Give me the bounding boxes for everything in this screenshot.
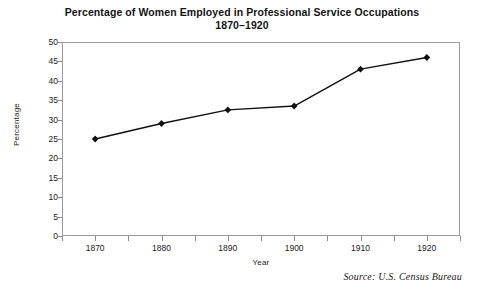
y-tick-mark bbox=[57, 178, 62, 179]
x-tick-label: 1870 bbox=[70, 243, 120, 253]
x-tick-mark bbox=[427, 236, 428, 241]
y-tick-label: 25 bbox=[36, 135, 58, 144]
x-tick-mark bbox=[162, 236, 163, 241]
x-tick-mark bbox=[294, 236, 295, 241]
x-tick-mark bbox=[361, 236, 362, 241]
chart-title-line1: Percentage of Women Employed in Professi… bbox=[0, 6, 484, 19]
x-tick-label: 1890 bbox=[203, 243, 253, 253]
y-tick-label: 20 bbox=[36, 154, 58, 163]
x-axis-tick-labels: 187018801890190019101920 bbox=[0, 243, 484, 255]
x-tick-label: 1880 bbox=[137, 243, 187, 253]
x-tick-label: 1910 bbox=[336, 243, 386, 253]
x-tick-mark bbox=[261, 236, 262, 241]
y-tick-label: 15 bbox=[36, 173, 58, 182]
y-tick-mark bbox=[57, 120, 62, 121]
y-tick-label: 10 bbox=[36, 193, 58, 202]
y-tick-mark bbox=[57, 217, 62, 218]
x-tick-mark bbox=[128, 236, 129, 241]
plot-area bbox=[62, 42, 460, 236]
y-tick-mark bbox=[57, 158, 62, 159]
y-axis-tick-labels: 50454035302520151050 bbox=[34, 42, 58, 236]
x-tick-mark bbox=[327, 236, 328, 241]
chart-title: Percentage of Women Employed in Professi… bbox=[0, 6, 484, 32]
chart-figure: Percentage of Women Employed in Professi… bbox=[0, 0, 484, 292]
x-axis-title: Year bbox=[62, 258, 460, 267]
y-tick-label: 30 bbox=[36, 115, 58, 124]
y-tick-mark bbox=[57, 81, 62, 82]
x-tick-mark bbox=[460, 236, 461, 241]
y-tick-mark bbox=[57, 61, 62, 62]
x-tick-mark bbox=[62, 236, 63, 241]
y-tick-mark bbox=[57, 197, 62, 198]
y-tick-label: 0 bbox=[36, 232, 58, 241]
y-axis-title: Percentage bbox=[12, 95, 21, 155]
y-tick-label: 35 bbox=[36, 96, 58, 105]
x-axis-ticks bbox=[62, 236, 460, 242]
y-tick-label: 40 bbox=[36, 76, 58, 85]
x-tick-label: 1920 bbox=[402, 243, 452, 253]
y-tick-label: 50 bbox=[36, 38, 58, 47]
chart-title-line2: 1870–1920 bbox=[0, 19, 484, 32]
x-tick-mark bbox=[394, 236, 395, 241]
y-tick-mark bbox=[57, 42, 62, 43]
x-tick-label: 1900 bbox=[269, 243, 319, 253]
y-tick-label: 5 bbox=[36, 212, 58, 221]
x-tick-mark bbox=[95, 236, 96, 241]
y-tick-mark bbox=[57, 139, 62, 140]
x-tick-mark bbox=[228, 236, 229, 241]
x-tick-mark bbox=[195, 236, 196, 241]
y-axis-ticks bbox=[56, 42, 62, 236]
y-tick-label: 45 bbox=[36, 57, 58, 66]
source-note: Source: U.S. Census Bureau bbox=[343, 271, 462, 282]
y-tick-mark bbox=[57, 100, 62, 101]
